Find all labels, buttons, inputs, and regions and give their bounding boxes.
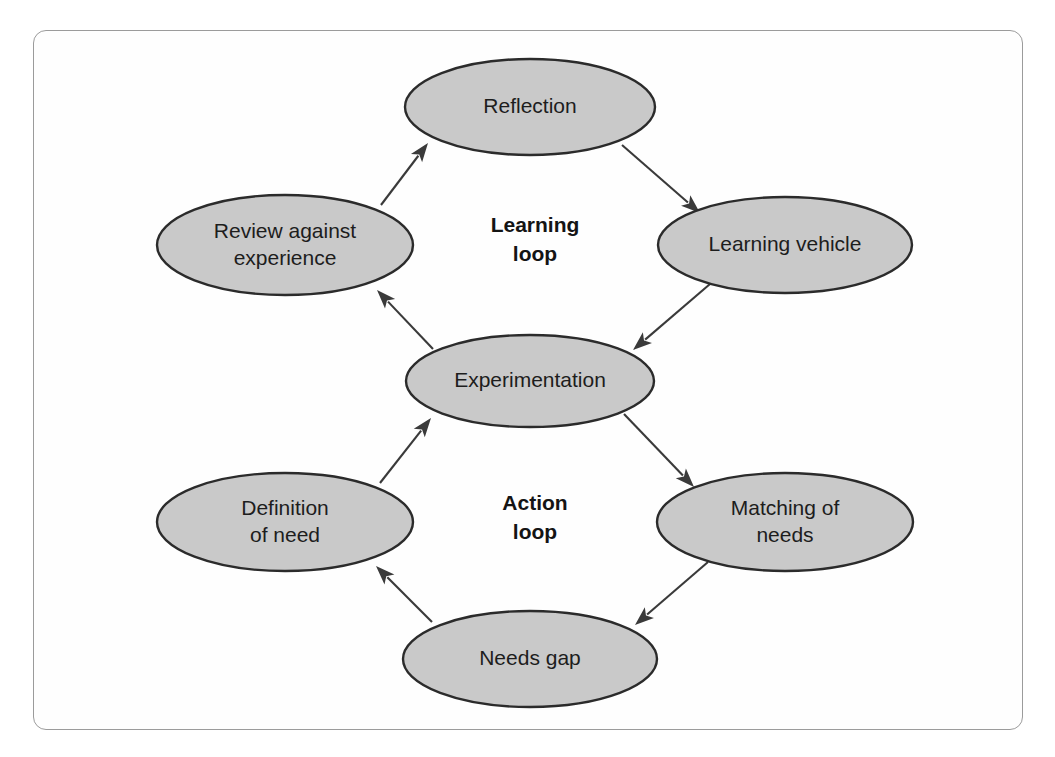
node-experimentation[interactable]: Experimentation (406, 335, 654, 427)
edge-line (387, 577, 432, 622)
node-reflection[interactable]: Reflection (405, 59, 655, 155)
edge-arrowhead (411, 143, 428, 162)
edge-line (622, 145, 688, 202)
edge-arrowhead (414, 418, 431, 437)
edge-arrow (377, 290, 433, 349)
edge-arrow (381, 143, 428, 205)
loop-label-learning_loop: Learningloop (491, 212, 580, 264)
figure-root: ReflectionLearning vehicleExperimentatio… (0, 0, 1055, 757)
edge-line (647, 562, 708, 615)
edge-line (388, 302, 433, 349)
cycle-diagram-canvas: ReflectionLearning vehicleExperimentatio… (0, 0, 1055, 757)
edge-arrow (633, 284, 710, 350)
edge-arrow (380, 418, 431, 483)
node-review_against_experience[interactable]: Review againstexperience (157, 195, 413, 295)
edge-line (645, 284, 710, 340)
node-learning_vehicle[interactable]: Learning vehicle (658, 197, 912, 293)
edge-line (381, 156, 418, 205)
node-definition_of_need[interactable]: Definitionof need (157, 473, 413, 571)
loop-label-action_loop: Actionloop (502, 490, 567, 542)
edge-arrow (624, 414, 694, 487)
edge-arrow (376, 566, 432, 622)
node-label: Learning vehicle (709, 232, 862, 255)
node-needs_gap[interactable]: Needs gap (403, 611, 657, 707)
edge-arrow (622, 145, 700, 213)
node-label: Needs gap (479, 646, 581, 669)
edge-line (624, 414, 683, 475)
edge-arrow (635, 562, 708, 625)
nodes-layer: ReflectionLearning vehicleExperimentatio… (157, 59, 913, 707)
node-label: Experimentation (454, 368, 606, 391)
edge-line (380, 431, 421, 483)
node-matching_of_needs[interactable]: Matching ofneeds (657, 473, 913, 571)
node-label: Reflection (483, 94, 576, 117)
